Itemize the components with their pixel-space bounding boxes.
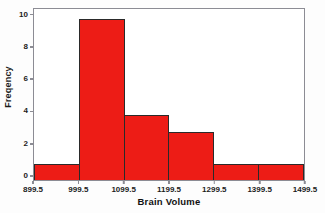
histogram-bar bbox=[258, 164, 304, 180]
cropped-title-artifact bbox=[0, 0, 325, 6]
x-axis-tick-mark bbox=[304, 181, 306, 184]
x-axis-tick: 1099.5 bbox=[111, 181, 135, 195]
y-axis-tick: 2 bbox=[24, 139, 33, 149]
x-axis-tick-label: 899.5 bbox=[23, 185, 43, 195]
histogram-bar bbox=[213, 164, 259, 180]
x-axis: 899.5999.51099.51199.51299.51399.51499.5 bbox=[33, 181, 305, 195]
x-axis-tick-mark bbox=[259, 181, 261, 184]
x-axis-tick-label: 1499.5 bbox=[293, 185, 317, 195]
x-axis-tick-mark bbox=[214, 181, 216, 184]
y-axis-tick-label: 10 bbox=[19, 10, 30, 20]
x-axis-tick-mark bbox=[78, 181, 80, 184]
x-axis-tick: 1299.5 bbox=[202, 181, 226, 195]
bars-layer bbox=[34, 9, 304, 180]
y-axis-tick: 4 bbox=[24, 106, 33, 116]
histogram-bar bbox=[79, 19, 125, 180]
x-axis-tick-mark bbox=[168, 181, 170, 184]
histogram-bar bbox=[124, 115, 170, 180]
y-axis-tick: 0 bbox=[24, 171, 33, 181]
x-axis-title: Brain Volume bbox=[33, 196, 305, 207]
x-axis-tick-label: 1299.5 bbox=[202, 185, 226, 195]
x-axis-tick-label: 1099.5 bbox=[111, 185, 135, 195]
histogram-chart: Freqency 0246810 899.5999.51099.51199.51… bbox=[0, 0, 325, 213]
y-axis-tick: 10 bbox=[19, 10, 33, 20]
x-axis-tick: 1499.5 bbox=[293, 181, 317, 195]
x-axis-tick-mark bbox=[32, 181, 34, 184]
x-axis-tick-label: 999.5 bbox=[68, 185, 88, 195]
histogram-bar bbox=[34, 164, 80, 180]
histogram-bar bbox=[168, 132, 214, 180]
x-axis-tick: 1199.5 bbox=[157, 181, 181, 195]
x-axis-tick: 999.5 bbox=[68, 181, 88, 195]
x-axis-tick-label: 1199.5 bbox=[157, 185, 181, 195]
y-axis-tick: 6 bbox=[24, 74, 33, 84]
x-axis-tick-label: 1399.5 bbox=[247, 185, 271, 195]
x-axis-tick: 899.5 bbox=[23, 181, 43, 195]
y-axis-tick: 8 bbox=[24, 42, 33, 52]
x-axis-tick-mark bbox=[123, 181, 125, 184]
x-axis-tick: 1399.5 bbox=[247, 181, 271, 195]
y-axis: 0246810 bbox=[0, 8, 33, 181]
